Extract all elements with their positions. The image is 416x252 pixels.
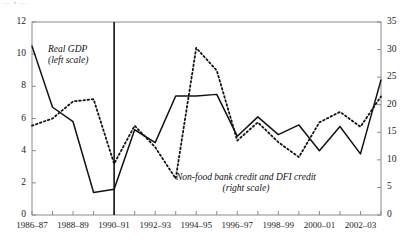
right-axis-tick-20: 20 — [387, 99, 407, 109]
right-axis-tick-35: 35 — [387, 16, 407, 26]
right-axis-tick-10: 10 — [387, 154, 407, 164]
annotation-real-gdp: Real GDP (left scale) — [48, 44, 88, 66]
annotation-bank-credit: Non-food bank credit and DFI credit (rig… — [176, 172, 316, 194]
right-axis-tick-5: 5 — [387, 181, 407, 191]
right-axis-tick-15: 15 — [387, 126, 407, 136]
left-axis-tick-4: 4 — [8, 145, 26, 155]
x-axis-tick-8: 2002–03 — [336, 220, 384, 230]
right-axis-tick-25: 25 — [387, 71, 407, 81]
left-axis-tick-10: 10 — [8, 48, 26, 58]
right-axis-tick-0: 0 — [387, 209, 407, 219]
left-axis-tick-12: 12 — [8, 16, 26, 26]
annotation-bank-credit-line1: Non-food bank credit and DFI credit — [176, 172, 316, 183]
annotation-real-gdp-line2: (left scale) — [48, 55, 88, 66]
left-axis-tick-8: 8 — [8, 80, 26, 90]
annotation-bank-credit-line2: (right scale) — [176, 183, 316, 194]
left-axis-tick-6: 6 — [8, 113, 26, 123]
chart-plot-area — [0, 0, 416, 252]
annotation-real-gdp-line1: Real GDP — [48, 44, 88, 55]
left-axis-tick-2: 2 — [8, 177, 26, 187]
chart-container: — ▪ — 121086420 35302520151050 1986–8719… — [0, 0, 416, 252]
left-axis-tick-0: 0 — [8, 209, 26, 219]
right-axis-tick-30: 30 — [387, 44, 407, 54]
